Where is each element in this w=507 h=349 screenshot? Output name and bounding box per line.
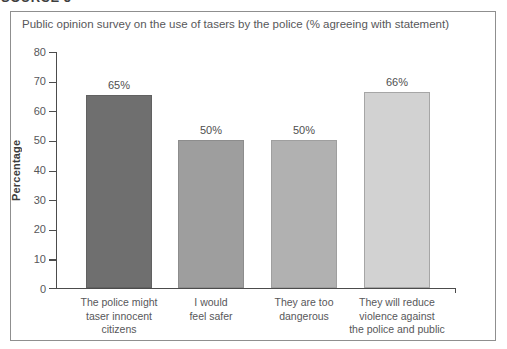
bar xyxy=(178,140,244,288)
y-tick-mark xyxy=(49,141,56,142)
y-tick-mark xyxy=(49,200,56,201)
x-category-label-line: citizens xyxy=(52,323,186,337)
y-tick-mark xyxy=(49,111,56,112)
source-label: SOURCE 5 xyxy=(1,0,71,5)
y-tick-label: 30 xyxy=(21,194,46,206)
y-tick-label: 20 xyxy=(21,223,46,235)
y-tick-mark xyxy=(49,171,56,172)
x-category-label: They will reduceviolence againstthe poli… xyxy=(330,296,464,337)
y-tick-mark xyxy=(49,259,56,260)
x-category-label-line: the police and public xyxy=(330,323,464,337)
x-category-label-line: violence against xyxy=(330,310,464,324)
y-tick-mark xyxy=(49,230,56,231)
y-tick-mark xyxy=(49,288,56,289)
y-tick-label: 70 xyxy=(21,75,46,87)
bar-value-label: 50% xyxy=(274,124,334,136)
bar xyxy=(271,140,337,288)
y-tick-label: 80 xyxy=(21,46,46,58)
y-tick-label: 40 xyxy=(21,164,46,176)
y-tick-label: 50 xyxy=(21,134,46,146)
y-tick-label: 10 xyxy=(21,253,46,265)
bar-value-label: 65% xyxy=(89,79,149,91)
x-category-label-line: They will reduce xyxy=(330,296,464,310)
y-tick-mark xyxy=(49,52,56,53)
bar-value-label: 66% xyxy=(367,76,427,88)
x-axis-end-tick xyxy=(455,288,456,293)
plot-area: 0102030405060708065%The police mighttase… xyxy=(56,52,455,289)
y-tick-label: 0 xyxy=(21,283,46,295)
bar-value-label: 50% xyxy=(181,124,241,136)
y-tick-label: 60 xyxy=(21,105,46,117)
bar xyxy=(86,95,152,288)
y-tick-mark xyxy=(49,82,56,83)
chart-title: Public opinion survey on the use of tase… xyxy=(22,18,449,30)
bar xyxy=(364,92,430,288)
